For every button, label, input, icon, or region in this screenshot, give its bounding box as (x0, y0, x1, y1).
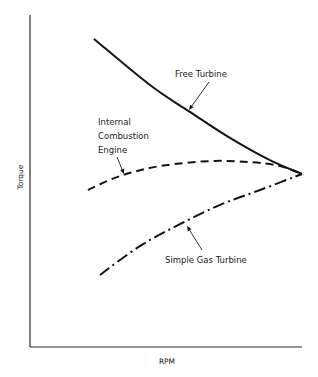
torque-rpm-chart: Torque RPM Free Turbine InternalCombusti… (0, 0, 318, 377)
free-turbine-annotation: Free Turbine (175, 69, 227, 110)
internal-combustion-engine-label: InternalCombustionEngine (98, 117, 149, 155)
simple-gas-turbine-annotation: Simple Gas Turbine (165, 226, 247, 265)
internal-combustion-engine-annotation: InternalCombustionEngine (98, 117, 149, 174)
x-axis-label: RPM (159, 357, 175, 366)
simple-gas-turbine-label: Simple Gas Turbine (165, 255, 247, 265)
free-turbine-label: Free Turbine (175, 69, 227, 79)
y-axis-label: Torque (16, 164, 25, 190)
simple-gas-turbine-arrow (189, 229, 202, 250)
axes (30, 15, 302, 347)
free-turbine-arrow (191, 82, 209, 107)
internal-combustion-engine-arrow (117, 157, 122, 170)
annotations: Free Turbine InternalCombustionEngine Si… (98, 69, 247, 265)
arrow-head-icon (187, 226, 192, 231)
arrow-head-icon (189, 105, 194, 110)
